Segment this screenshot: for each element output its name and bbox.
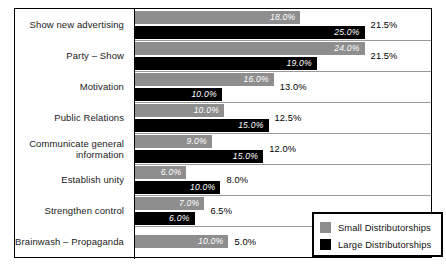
- bar-large-distributorships: 10.0%: [135, 88, 222, 101]
- bar-value-label-large: 10.0%: [190, 182, 215, 192]
- bar-value-label-small: 9.0%: [187, 136, 207, 146]
- legend-label-small: Small Distributorships: [338, 222, 431, 233]
- total-value-label: 21.5%: [371, 51, 398, 61]
- legend-item-small: Small Distributorships: [320, 219, 435, 236]
- bar-small-distributorships: 9.0%: [135, 135, 212, 148]
- bar-group: 6.0%10.0%8.0%: [135, 164, 431, 195]
- bar-value-label-large: 15.0%: [233, 151, 258, 161]
- chart-frame: Show new advertisingParty – ShowMotivati…: [14, 8, 432, 258]
- category-label: Motivation: [14, 81, 124, 93]
- bar-group: 24.0%19.0%21.5%: [135, 40, 431, 71]
- bar-group: 10.0%15.0%12.5%: [135, 102, 431, 133]
- category-label: Strengthen control: [14, 205, 124, 217]
- bar-group: 18.0%25.0%21.5%: [135, 9, 431, 40]
- bar-value-label-large: 25.0%: [334, 27, 359, 37]
- bar-large-distributorships: 15.0%: [135, 119, 269, 132]
- legend-swatch-large-icon: [320, 239, 331, 250]
- category-label: Establish unity: [14, 174, 124, 186]
- bar-value-label-small: 16.0%: [243, 74, 268, 84]
- category-label-column: Show new advertisingParty – ShowMotivati…: [15, 9, 130, 259]
- bar-large-distributorships: 25.0%: [135, 26, 365, 39]
- bar-group: 9.0%15.0%12.0%: [135, 133, 431, 164]
- bar-small-distributorships: 10.0%: [135, 104, 224, 117]
- legend-label-large: Large Distributorships: [338, 239, 431, 250]
- total-value-label: 21.5%: [371, 20, 398, 30]
- bar-value-label-small: 18.0%: [270, 12, 295, 22]
- category-label: Communicate general information: [14, 137, 124, 160]
- bar-small-distributorships: 24.0%: [135, 42, 365, 55]
- bar-value-label-large: 19.0%: [286, 58, 311, 68]
- bar-small-distributorships: 16.0%: [135, 73, 274, 86]
- bar-chart: Show new advertisingParty – ShowMotivati…: [0, 0, 446, 270]
- bar-large-distributorships: 15.0%: [135, 150, 263, 163]
- bar-large-distributorships: 6.0%: [135, 212, 195, 225]
- category-label: Public Relations: [14, 112, 124, 124]
- bar-value-label-small: 10.0%: [194, 105, 219, 115]
- total-value-label: 5.0%: [234, 237, 256, 247]
- total-value-label: 12.5%: [275, 113, 302, 123]
- bar-large-distributorships: 10.0%: [135, 181, 220, 194]
- bar-value-label-small: 10.0%: [198, 236, 223, 246]
- bar-value-label-large: 15.0%: [238, 120, 263, 130]
- bar-small-distributorships: 10.0%: [135, 235, 228, 248]
- category-label: Party – Show: [14, 50, 124, 62]
- legend-item-large: Large Distributorships: [320, 236, 435, 253]
- bar-value-label-small: 7.0%: [179, 198, 199, 208]
- legend-swatch-small-icon: [320, 222, 331, 233]
- bar-small-distributorships: 7.0%: [135, 197, 204, 210]
- total-value-label: 8.0%: [226, 175, 248, 185]
- chart-legend: Small Distributorships Large Distributor…: [312, 212, 443, 257]
- bar-value-label-small: 6.0%: [161, 167, 181, 177]
- total-value-label: 6.5%: [210, 206, 232, 216]
- total-value-label: 12.0%: [269, 144, 296, 154]
- bar-small-distributorships: 6.0%: [135, 166, 186, 179]
- bar-large-distributorships: 19.0%: [135, 57, 317, 70]
- bar-value-label-large: 6.0%: [169, 213, 189, 223]
- total-value-label: 13.0%: [280, 82, 307, 92]
- bar-group: 16.0%10.0%13.0%: [135, 71, 431, 102]
- category-label: Show new advertising: [14, 19, 124, 31]
- bar-value-label-small: 24.0%: [334, 43, 359, 53]
- category-label: Brainwash – Propaganda: [14, 236, 124, 248]
- bar-small-distributorships: 18.0%: [135, 11, 300, 24]
- bar-value-label-large: 10.0%: [191, 89, 216, 99]
